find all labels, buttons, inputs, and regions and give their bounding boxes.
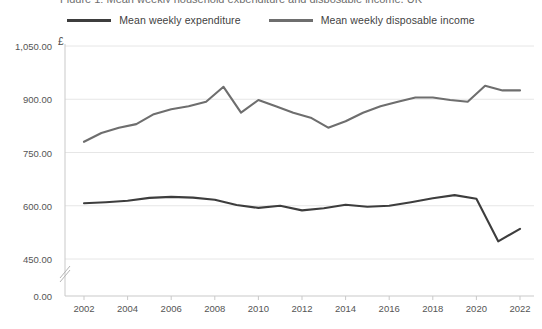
chart-container: Figure 1: Mean weekly household expendit… — [0, 0, 542, 329]
series-line-expenditure — [84, 195, 520, 241]
series-line-income — [84, 86, 520, 142]
chart-plot — [0, 0, 542, 329]
gridlines — [65, 46, 534, 259]
x-axis-tick-marks — [84, 296, 520, 300]
